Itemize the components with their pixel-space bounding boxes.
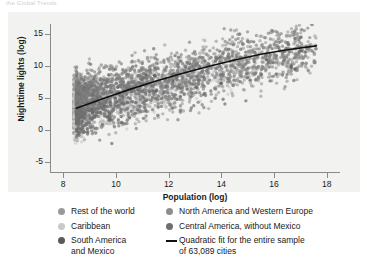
legend-item-label: Quadratic fit for the entire sample [179,235,367,246]
x-tick [169,173,170,178]
legend-dot-swatch [166,208,173,215]
x-tick [63,173,64,178]
x-axis-line [50,172,340,173]
legend-item-label-line2: and Mexico [71,246,158,257]
legend-item-label: Central America, without Mexico [179,221,367,232]
legend-item-right-1[interactable]: Central America, without Mexico [166,221,367,232]
legend-item-label: Caribbean [71,221,158,232]
plot-data-area [50,24,340,172]
legend-column-left: Rest of the worldCaribbeanSouth Americaa… [58,206,158,261]
legend-item-right-2[interactable]: Quadratic fit for the entire sampleof 63… [166,235,367,257]
legend-item-label: South America [71,235,158,246]
legend-dot-swatch [58,223,65,230]
legend-item-left-2[interactable]: South Americaand Mexico [58,235,158,257]
fit-curve [76,46,316,108]
legend-dot-swatch [166,223,173,230]
legend-column-right: North America and Western EuropeCentral … [166,206,367,261]
legend-dot-swatch [58,208,65,215]
x-tick [327,173,328,178]
x-tick [221,173,222,178]
quadratic-fit-line [50,24,340,172]
x-tick [116,173,117,178]
legend-item-label: Rest of the world [71,206,158,217]
y-axis-title: Nighttime lights (log) [16,9,26,149]
x-tick-label: 18 [312,179,342,189]
figure: the Global Trends 151050-5 81012141618 N… [0,0,367,278]
y-tick-label: -5 [3,157,43,166]
caption-remnant: the Global Trends [6,0,176,7]
legend-item-label: North America and Western Europe [179,206,367,217]
legend-line-swatch [166,240,177,242]
x-axis-title: Population (log) [120,192,270,202]
legend-item-left-0[interactable]: Rest of the world [58,206,158,217]
x-tick-label: 16 [259,179,289,189]
x-tick-label: 8 [48,179,78,189]
legend-item-label-line2: of 63,089 cities [179,246,367,257]
legend-item-left-1[interactable]: Caribbean [58,221,158,232]
legend-item-right-0[interactable]: North America and Western Europe [166,206,367,217]
legend-dot-swatch [58,237,65,244]
x-tick-label: 14 [206,179,236,189]
x-tick-label: 12 [154,179,184,189]
x-tick [274,173,275,178]
x-tick-label: 10 [101,179,131,189]
